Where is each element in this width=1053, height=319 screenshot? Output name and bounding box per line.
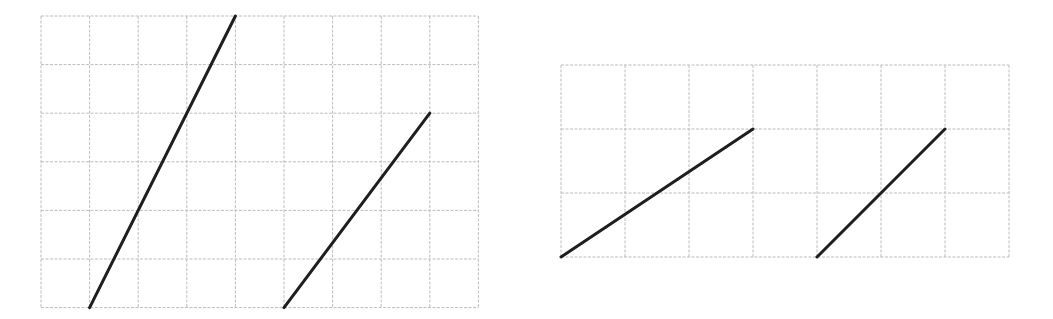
diagram-canvas	[0, 0, 1053, 319]
left-grid-diagram	[41, 16, 478, 308]
right-grid-diagram	[561, 65, 1009, 257]
